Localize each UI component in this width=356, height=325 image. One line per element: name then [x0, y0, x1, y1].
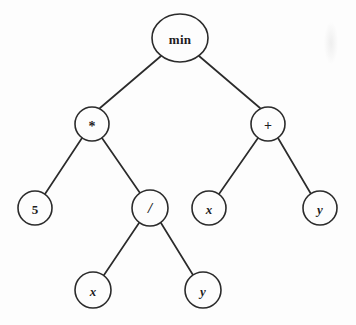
expression-tree-diagram: min * + 5 / x y x: [0, 0, 356, 325]
node-min-label: min: [169, 32, 192, 47]
node-five[interactable]: 5: [18, 191, 52, 225]
node-x-right-label: x: [205, 202, 213, 217]
edge-plus-to-y: [278, 138, 311, 194]
node-y-bottom[interactable]: y: [185, 272, 221, 308]
node-x-right[interactable]: x: [192, 191, 226, 225]
node-y-right[interactable]: y: [303, 191, 337, 225]
edge-min-to-multiply: [100, 56, 161, 108]
edge-divide-to-y: [161, 223, 193, 275]
node-min[interactable]: min: [152, 14, 208, 62]
node-y-bottom-label: y: [198, 284, 206, 299]
edge-multiply-to-divide: [102, 138, 140, 193]
node-x-bottom[interactable]: x: [75, 272, 111, 308]
node-x-bottom-label: x: [89, 284, 97, 299]
node-multiply[interactable]: *: [75, 107, 109, 141]
edge-plus-to-x: [219, 138, 258, 194]
node-y-right-label: y: [315, 202, 323, 217]
edge-group: [45, 56, 311, 275]
node-plus-label: +: [264, 118, 272, 133]
node-plus[interactable]: +: [251, 107, 285, 141]
node-multiply-label: *: [89, 119, 96, 134]
node-five-label: 5: [32, 202, 39, 217]
edge-divide-to-x: [104, 223, 139, 275]
edge-min-to-plus: [199, 56, 260, 108]
node-divide[interactable]: /: [132, 190, 168, 226]
edge-multiply-to-five: [45, 138, 82, 194]
tree-canvas: min * + 5 / x y x: [0, 0, 356, 325]
